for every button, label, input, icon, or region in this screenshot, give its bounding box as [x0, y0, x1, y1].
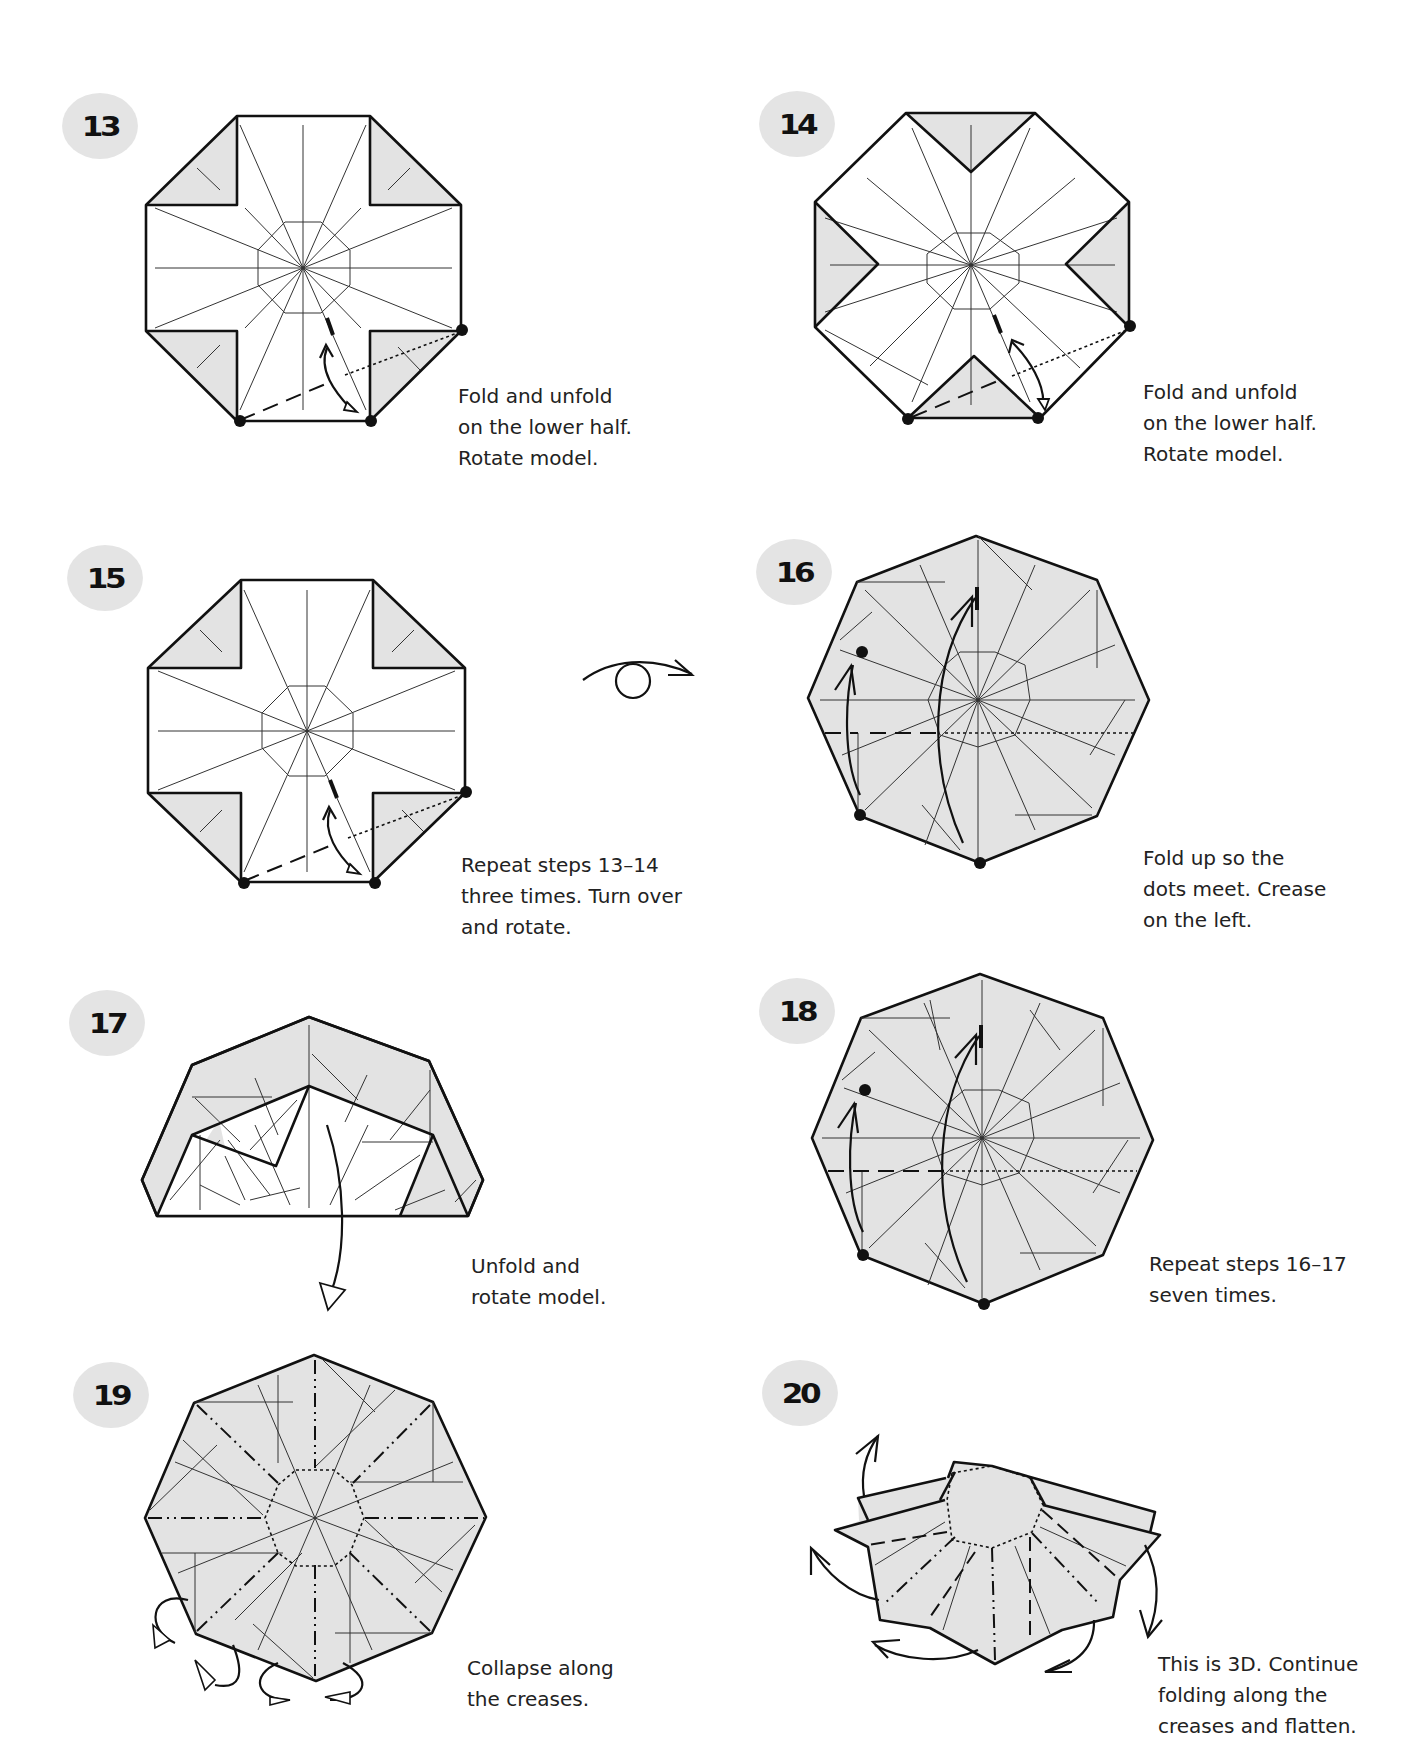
step-20-caption: This is 3D. Continue folding along the c… [1158, 1649, 1358, 1737]
step-17-caption: Unfold and rotate model. [471, 1251, 606, 1313]
step-18-diagram [800, 970, 1180, 1310]
step-14-diagram [800, 105, 1200, 445]
step-18-caption: Repeat steps 16–17 seven times. [1149, 1249, 1347, 1311]
step-14-caption: Fold and unfold on the lower half. Rotat… [1143, 377, 1317, 470]
step-15-caption: Repeat steps 13–14 three times. Turn ove… [461, 850, 682, 943]
step-13-caption: Fold and unfold on the lower half. Rotat… [458, 381, 632, 474]
step-16-diagram [800, 530, 1180, 870]
step-20-diagram [760, 1360, 1180, 1700]
step-19-diagram [60, 1360, 500, 1732]
step-number-badge: 17 [69, 990, 145, 1056]
step-number-badge: 13 [62, 93, 138, 159]
turn-over-icon [575, 645, 695, 705]
step-16-caption: Fold up so the dots meet. Crease on the … [1143, 843, 1326, 936]
step-19-caption: Collapse along the creases. [467, 1653, 614, 1715]
